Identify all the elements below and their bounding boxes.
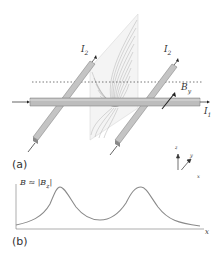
main-wire-current-label: I1 bbox=[204, 107, 211, 118]
axis-x-label: x bbox=[197, 174, 200, 179]
panel-a-label: (a) bbox=[12, 158, 27, 171]
left-wire-current-label: I2 bbox=[81, 45, 88, 56]
main-wire bbox=[12, 98, 210, 106]
plot-xlabel: x bbox=[205, 229, 209, 236]
field-curve bbox=[16, 187, 200, 226]
axis-y-label: y bbox=[190, 153, 193, 158]
coordinate-axes-icon bbox=[177, 154, 198, 170]
axis-z-label: z bbox=[175, 145, 178, 150]
plot-ylabel: B ≈ |Bz| bbox=[20, 179, 52, 189]
by-field-label: By bbox=[181, 83, 191, 94]
panel-b-label: (b) bbox=[12, 235, 28, 248]
right-wire-current-label: I2 bbox=[164, 45, 171, 56]
